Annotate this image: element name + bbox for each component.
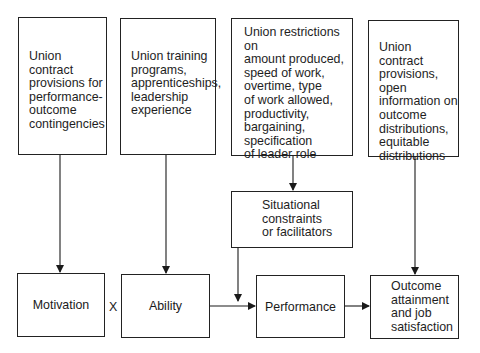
multiply-operator: X bbox=[109, 300, 117, 314]
box-label: Union contract provisions for performanc… bbox=[29, 50, 106, 132]
box-label: Motivation bbox=[33, 298, 89, 312]
box-motivation: Motivation bbox=[17, 273, 105, 337]
box-label: Performance bbox=[265, 300, 336, 314]
box-label: Situational constraints or facilitators bbox=[262, 199, 332, 240]
box-ability: Ability bbox=[121, 274, 210, 338]
box-situational-constraints: Situational constraints or facilitators bbox=[231, 191, 353, 248]
box-performance: Performance bbox=[256, 275, 345, 338]
box-label: Union contract provisions, open informat… bbox=[379, 41, 458, 163]
box-contract-contingencies: Union contract provisions for performanc… bbox=[18, 17, 107, 155]
box-outcome: Outcome attainment and job satisfaction bbox=[370, 275, 459, 339]
box-restrictions: Union restrictions on amount produced, s… bbox=[231, 18, 353, 156]
box-training: Union training programs, apprenticeships… bbox=[120, 18, 216, 155]
box-label: Outcome attainment and job satisfaction bbox=[391, 280, 453, 334]
box-open-information: Union contract provisions, open informat… bbox=[368, 20, 459, 157]
box-label: Ability bbox=[149, 299, 182, 313]
box-label: Union training programs, apprenticeships… bbox=[131, 50, 221, 118]
box-label: Union restrictions on amount produced, s… bbox=[244, 26, 352, 162]
